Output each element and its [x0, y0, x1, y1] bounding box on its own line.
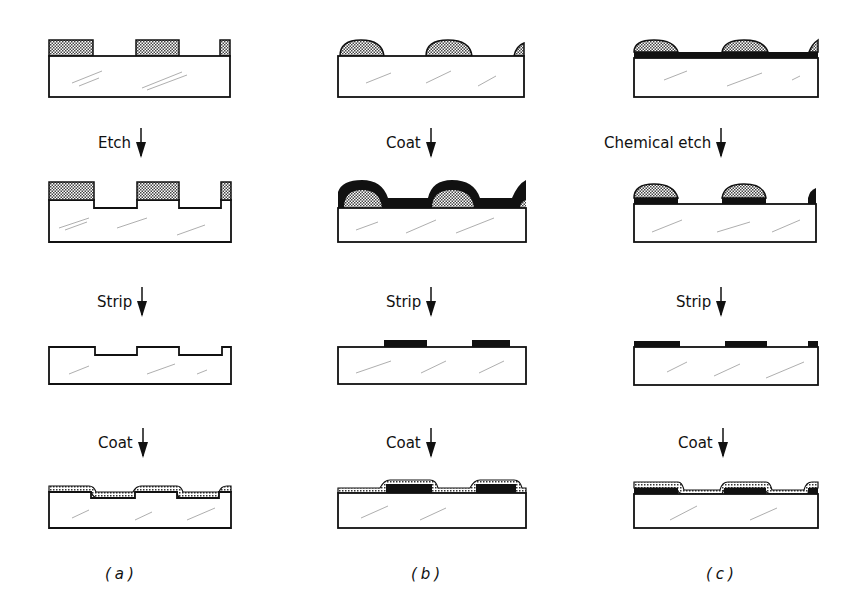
- panel-b2: [336, 178, 531, 244]
- substrate-with-rounded-resist-diagram: [336, 38, 531, 100]
- step-label-b-3: Coat: [386, 428, 437, 458]
- down-arrow-icon: [425, 287, 437, 317]
- coated-film-islands-diagram: [336, 478, 531, 530]
- panel-c3: [632, 340, 822, 388]
- etched-substrate-diagram: [47, 180, 237, 244]
- grooved-substrate-diagram: [47, 344, 237, 386]
- panel-a4: [47, 480, 237, 530]
- panel-a1: [47, 38, 237, 100]
- coated-resist-diagram: [336, 178, 531, 244]
- step-label-c-1: Chemical etch: [604, 128, 727, 158]
- step-label-c-3: Coat: [678, 428, 729, 458]
- step-label-b-2: Strip: [386, 287, 437, 317]
- step-label-a-1: Etch: [98, 128, 147, 158]
- film-islands-diagram: [336, 339, 531, 387]
- caption-b: (b): [411, 565, 444, 583]
- coated-film-pattern-diagram: [632, 478, 822, 530]
- substrate-with-resist-diagram: [47, 38, 237, 100]
- substrate-with-film-and-resist-diagram: [632, 38, 822, 100]
- film-etched-under-resist-diagram: [632, 180, 822, 244]
- panel-b3: [336, 339, 531, 387]
- down-arrow-icon: [715, 128, 727, 158]
- caption-a: (a): [105, 565, 138, 583]
- down-arrow-icon: [425, 428, 437, 458]
- down-arrow-icon: [137, 428, 149, 458]
- step-label-c-2: Strip: [676, 287, 727, 317]
- panel-a2: [47, 180, 237, 244]
- caption-c: (c): [706, 565, 738, 583]
- step-label-b-1: Coat: [386, 128, 437, 158]
- down-arrow-icon: [717, 428, 729, 458]
- down-arrow-icon: [425, 128, 437, 158]
- panel-c4: [632, 478, 822, 530]
- down-arrow-icon: [136, 287, 148, 317]
- down-arrow-icon: [135, 128, 147, 158]
- coated-grooved-substrate-diagram: [47, 480, 237, 530]
- panel-c2: [632, 180, 822, 244]
- step-label-a-2: Strip: [97, 287, 148, 317]
- film-pattern-diagram: [632, 340, 822, 388]
- panel-a3: [47, 344, 237, 386]
- panel-c1: [632, 38, 822, 100]
- down-arrow-icon: [715, 287, 727, 317]
- panel-b4: [336, 478, 531, 530]
- step-label-a-3: Coat: [98, 428, 149, 458]
- panel-b1: [336, 38, 531, 100]
